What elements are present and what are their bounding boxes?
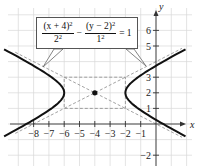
exponent: 2	[112, 20, 115, 27]
x-tick-label: −7	[44, 128, 55, 139]
y-tick-label: 5	[146, 41, 151, 52]
y-tick-label: −2	[140, 150, 151, 161]
y-tick-label: 1	[146, 103, 151, 114]
x-tick-label: −8	[28, 128, 39, 139]
y-term-numerator: (y − 2)	[86, 21, 112, 31]
y-tick-label: 3	[146, 72, 151, 83]
exponent: 2	[59, 33, 62, 40]
center-point	[92, 90, 97, 95]
y-axis-label: y	[158, 1, 164, 12]
hyperbola-graph: −8−7−6−5−4−3−2−165321−2xy (x + 4)2 22 − …	[0, 0, 200, 168]
x-tick-label: −2	[120, 128, 131, 139]
y-tick-label: 6	[146, 25, 151, 36]
x-axis-label: x	[189, 119, 195, 130]
x-tick-label: −6	[59, 128, 70, 139]
exponent: 2	[69, 20, 72, 27]
x-tick-label: −1	[135, 128, 146, 139]
minus-sign: −	[77, 28, 82, 38]
fraction-y-term: (y − 2)2 12	[85, 22, 116, 44]
fraction-x-term: (x + 4)2 22	[42, 22, 73, 44]
y-tick-label: 2	[146, 87, 151, 98]
x-tick-label: −4	[89, 128, 100, 139]
x-tick-label: −5	[74, 128, 85, 139]
equals-one: = 1	[119, 28, 131, 38]
x-tick-label: −3	[105, 128, 116, 139]
exponent: 2	[101, 33, 104, 40]
x-term-numerator: (x + 4)	[43, 21, 69, 31]
equation-label: (x + 4)2 22 − (y − 2)2 12 = 1	[36, 17, 138, 49]
